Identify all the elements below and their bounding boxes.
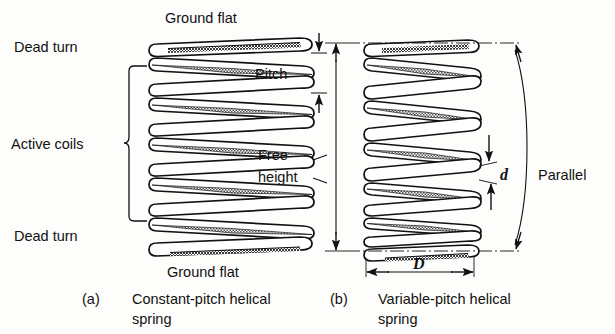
free-height-label-line1: Free [258, 147, 288, 163]
panel-a-caption-line1: Constant-pitch helical [132, 291, 271, 307]
dead-turn-bottom-label: Dead turn [14, 228, 78, 244]
active-coils-label: Active coils [11, 136, 84, 152]
free-height-label-line2: height [258, 169, 298, 185]
coil-diameter-label: D [412, 255, 425, 272]
panel-a-caption-line2: spring [132, 311, 172, 327]
panel-a-key: (a) [82, 291, 100, 307]
dead-turn-top-label: Dead turn [14, 39, 78, 55]
spring-diagram-svg: Ground flat Dead turn Active coils Dead … [0, 0, 615, 334]
panel-a-spring [124, 33, 346, 256]
variable-coils-b [364, 58, 481, 247]
dead-turn-top-a [149, 38, 312, 57]
active-coils-brace [124, 66, 147, 221]
wire-diameter-label: d [500, 166, 509, 183]
panel-b-key: (b) [330, 291, 348, 307]
panel-b-spring [346, 40, 527, 277]
active-coils-a [149, 58, 314, 239]
free-height-leaders [313, 155, 327, 183]
figure-canvas: Ground flat Dead turn Active coils Dead … [0, 0, 615, 334]
parallel-arc [515, 45, 527, 249]
pitch-label: Pitch [255, 66, 287, 82]
ground-flat-top-label: Ground flat [165, 10, 237, 26]
free-height-dimension [325, 43, 346, 251]
panel-b-caption-line1: Variable-pitch helical [378, 291, 511, 307]
parallel-label: Parallel [538, 167, 586, 183]
dead-turn-bottom-a [149, 237, 312, 256]
ground-flat-bottom-label: Ground flat [167, 264, 239, 280]
panel-b-caption-line2: spring [378, 311, 418, 327]
